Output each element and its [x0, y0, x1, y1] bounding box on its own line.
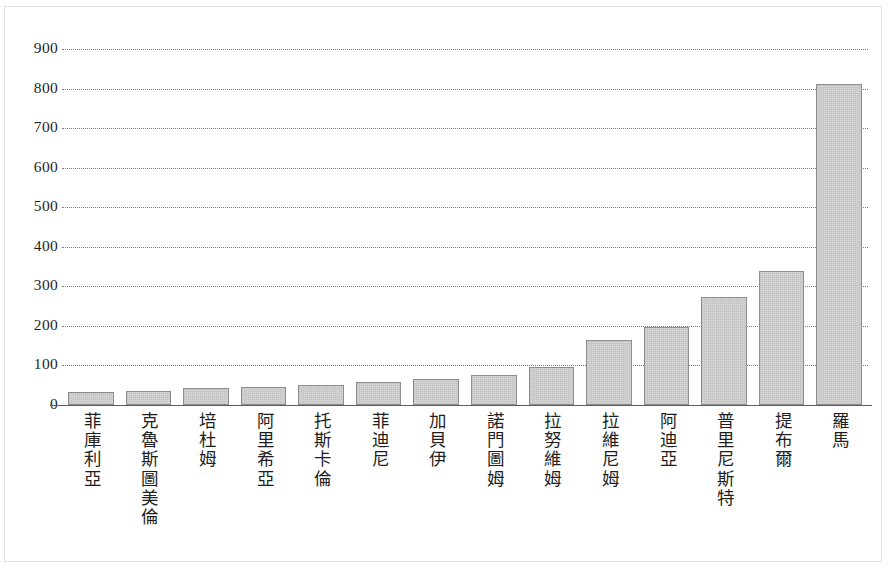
bar-slot — [68, 0, 113, 405]
x-axis-tick-label: 羅馬 — [829, 412, 849, 450]
bar-slot — [471, 0, 516, 405]
x-axis-tick-label-text: 提布爾 — [772, 412, 792, 470]
x-axis-tick-label-text: 羅馬 — [829, 412, 849, 450]
bar-slot — [183, 0, 228, 405]
bar — [241, 387, 286, 405]
y-axis-tick-label: 700 — [14, 119, 58, 135]
x-axis-tick-label: 加貝伊 — [426, 412, 446, 470]
bar — [759, 271, 804, 405]
x-axis-tick-label-text: 加貝伊 — [426, 412, 446, 470]
bar — [816, 84, 861, 405]
y-axis-tick-label: 800 — [14, 80, 58, 96]
y-axis-tick-label: 900 — [14, 40, 58, 56]
x-axis-tick-label-text: 培杜姆 — [196, 412, 216, 470]
bar-slot — [586, 0, 631, 405]
bar-slot — [241, 0, 286, 405]
bar — [183, 388, 228, 405]
bar-slot — [126, 0, 171, 405]
bar — [356, 382, 401, 405]
x-axis-tick-label: 菲迪尼 — [369, 412, 389, 470]
x-axis-line — [50, 405, 872, 406]
x-axis-tick-label: 阿里希亞 — [254, 412, 274, 489]
x-axis-tick-label-text: 普里尼斯特 — [714, 412, 734, 508]
bar-slot — [413, 0, 458, 405]
bar-slot — [816, 0, 861, 405]
y-axis-tick-label: 400 — [14, 238, 58, 254]
bar — [644, 327, 689, 405]
y-axis-tick-label: 200 — [14, 317, 58, 333]
x-axis-tick-label-text: 拉維尼姆 — [599, 412, 619, 489]
x-axis-tick-label-text: 托斯卡倫 — [311, 412, 331, 489]
x-axis-tick-label: 諾門圖姆 — [484, 412, 504, 489]
x-axis-tick-label-text: 阿里希亞 — [254, 412, 274, 489]
bar-slot — [529, 0, 574, 405]
y-axis-tick-label: 300 — [14, 277, 58, 293]
bar-slot — [644, 0, 689, 405]
bar — [529, 367, 574, 405]
x-axis-tick-label: 拉努維姆 — [541, 412, 561, 489]
bar — [413, 379, 458, 406]
y-axis-tick-label: 100 — [14, 356, 58, 372]
x-axis-tick-label: 提布爾 — [772, 412, 792, 470]
x-axis-tick-label: 普里尼斯特 — [714, 412, 734, 508]
bar — [471, 375, 516, 405]
y-axis-tick-label: 500 — [14, 198, 58, 214]
bar-slot — [298, 0, 343, 405]
x-axis-tick-label: 菲庫利亞 — [81, 412, 101, 489]
x-axis-tick-label: 克魯斯圖美倫 — [138, 412, 158, 527]
x-axis-tick-label: 培杜姆 — [196, 412, 216, 470]
bar — [701, 297, 746, 405]
y-axis-tick-label: 600 — [14, 159, 58, 175]
x-axis-tick-label: 阿迪亞 — [657, 412, 677, 470]
y-axis-tick-label: 0 — [14, 396, 58, 412]
chart-figure: 0100200300400500600700800900 菲庫利亞克魯斯圖美倫培… — [0, 0, 889, 574]
bar — [586, 340, 631, 405]
x-axis-tick-label: 托斯卡倫 — [311, 412, 331, 489]
x-axis-tick-label-text: 諾門圖姆 — [484, 412, 504, 489]
x-axis-tick-label-text: 菲迪尼 — [369, 412, 389, 470]
x-axis-tick-label-text: 菲庫利亞 — [81, 412, 101, 489]
x-axis-tick-label-text: 拉努維姆 — [541, 412, 561, 489]
bar — [298, 385, 343, 405]
bar-slot — [356, 0, 401, 405]
bar-slot — [701, 0, 746, 405]
bar-slot — [759, 0, 804, 405]
plot-area: 0100200300400500600700800900 菲庫利亞克魯斯圖美倫培… — [0, 0, 889, 574]
bar — [68, 392, 113, 405]
x-axis-tick-label-text: 阿迪亞 — [657, 412, 677, 470]
x-axis-tick-label: 拉維尼姆 — [599, 412, 619, 489]
bar — [126, 391, 171, 405]
x-axis-tick-label-text: 克魯斯圖美倫 — [138, 412, 158, 527]
